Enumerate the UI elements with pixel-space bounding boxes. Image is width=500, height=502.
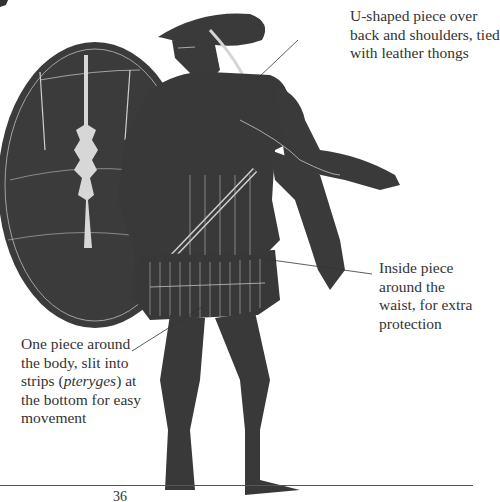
caption-line: movement [21, 409, 141, 428]
warrior-head [158, 13, 265, 80]
caption-body-piece: One piece around the body, slit into str… [21, 335, 141, 428]
warrior-legs [160, 312, 300, 495]
caption-text: ) at [116, 372, 136, 389]
caption-shoulder-piece: U-shaped piece over back and shoulders, … [350, 7, 500, 63]
corner-mark [0, 0, 8, 7]
caption-term-italic: pteryges [64, 372, 117, 389]
caption-line: waist, for extra [379, 296, 472, 315]
caption-line: protection [379, 315, 472, 334]
caption-line: around the [379, 278, 472, 297]
caption-line: U-shaped piece over [350, 7, 500, 26]
warrior-torso [118, 72, 400, 320]
caption-line: Inside piece [379, 259, 472, 278]
caption-text: strips ( [21, 372, 64, 389]
caption-line: with leather thongs [350, 44, 500, 63]
page-number: 36 [113, 489, 127, 502]
caption-waist-piece: Inside piece around the waist, for extra… [379, 259, 472, 333]
footer-rule [0, 485, 473, 486]
caption-line: the bottom for easy [21, 391, 141, 410]
caption-line: back and shoulders, tied [350, 26, 500, 45]
caption-line: the body, slit into [21, 354, 141, 373]
caption-line: strips (pteryges) at [21, 372, 141, 391]
caption-line: One piece around [21, 335, 141, 354]
